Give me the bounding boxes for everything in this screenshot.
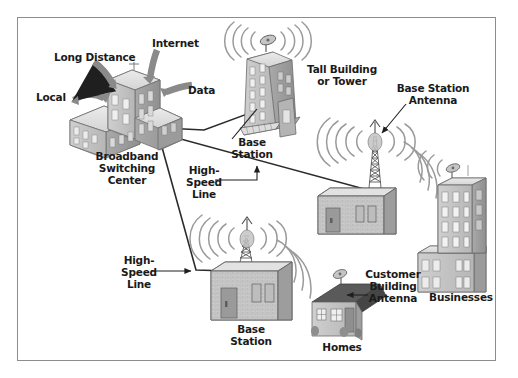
broadband-switching-center-icon [70, 62, 182, 158]
dish-antenna-icon-businesses [445, 162, 468, 178]
label-high-speed-line-upper: High- Speed Line [178, 165, 230, 200]
label-businesses: Businesses [424, 292, 498, 304]
dish-antenna-icon-tall-building [259, 33, 277, 52]
antenna-head-mid [368, 120, 382, 151]
label-long-distance: Long Distance [54, 52, 135, 64]
link-to-bottom-base-station [160, 140, 229, 271]
label-customer-building-antenna: Customer Building Antenna [357, 269, 429, 304]
arrow-internet [150, 50, 157, 78]
label-internet: Internet [152, 38, 199, 50]
arrow-long-distance [94, 62, 113, 84]
tall-building-tower-icon [240, 33, 300, 137]
label-high-speed-line-lower: High- Speed Line [113, 255, 165, 290]
dish-antenna-icon-homes [332, 268, 348, 284]
label-base-station-bottom: Base Station [224, 324, 278, 348]
label-broadband-switching-center: Broadband Switching Center [86, 151, 168, 186]
label-tall-building-or-tower: Tall Building or Tower [296, 64, 388, 88]
base-station-bottom-icon [211, 217, 292, 320]
network-diagram: Local Long Distance Internet Data Broadb… [0, 0, 518, 378]
label-local: Local [36, 92, 66, 104]
label-base-station-antenna: Base Station Antenna [387, 83, 479, 107]
antenna-head-bottom [240, 217, 254, 248]
label-data: Data [188, 85, 215, 97]
label-homes: Homes [314, 342, 370, 354]
label-base-station-tall: Base Station [225, 137, 279, 161]
leader-base-station-antenna [382, 104, 406, 133]
